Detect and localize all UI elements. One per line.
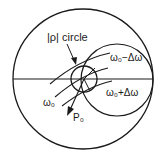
rho-pointer [67, 44, 74, 60]
p0-label: P₀ [73, 112, 84, 123]
omega0-plus-label: ω₀+Δω [106, 87, 138, 98]
radial-line [84, 68, 95, 79]
radial-line [84, 79, 90, 91]
omega0-minus-label: ω₀−Δω [110, 52, 142, 63]
smith-chart-diagram: |ρ| circle ω₀−Δω ω₀+Δω ω₀ P₀ [0, 0, 163, 158]
rho-pointer-arrowhead-icon [71, 57, 77, 65]
omega0-label: ω₀ [43, 97, 55, 108]
rho-circle-label: |ρ| circle [47, 31, 88, 43]
